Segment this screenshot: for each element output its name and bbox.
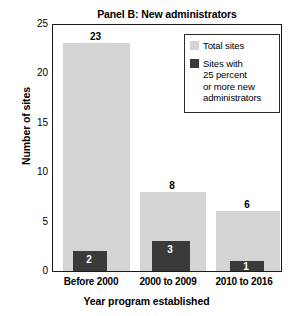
bar-value-label-sub-2010-2016: 1	[229, 261, 263, 272]
legend-swatch-icon-total-sites	[190, 41, 199, 50]
chart-title: Panel B: New administrators	[52, 8, 282, 20]
y-axis-tick-labels: 25 20 15 10 5 0	[22, 0, 48, 316]
x-tick-label-2010-2016: 2010 to 2016	[206, 276, 282, 288]
bar-value-label-sub-2000-2009: 3	[151, 244, 189, 255]
y-tick-label-0: 0	[26, 266, 48, 276]
y-tick-label-5: 5	[26, 217, 48, 227]
y-tick-label-25: 25	[26, 19, 48, 29]
legend-item-sites-25-percent: Sites with 25 percent or more new admini…	[190, 58, 275, 104]
bar-value-label-total-2000-2009: 8	[139, 180, 205, 191]
bar-value-label-total-before-2000: 23	[62, 31, 129, 42]
bar-value-label-sub-before-2000: 2	[72, 254, 106, 265]
plot-area: Total sites Sites with 25 percent or mor…	[52, 24, 282, 272]
y-tick-label-10: 10	[26, 167, 48, 177]
legend-item-total-sites: Total sites	[190, 40, 275, 52]
x-axis-title: Year program established	[0, 295, 293, 307]
y-tick-label-20: 20	[26, 68, 48, 78]
x-tick-label-2000-2009: 2000 to 2009	[130, 276, 206, 288]
legend-swatch-icon-sites-25-percent	[190, 59, 199, 68]
bar-total-before-2000[interactable]	[63, 43, 130, 271]
legend: Total sites Sites with 25 percent or mor…	[184, 34, 280, 113]
x-tick-label-before-2000: Before 2000	[52, 276, 130, 288]
chart-container: Panel B: New administrators Number of si…	[0, 0, 293, 316]
legend-label-sites-25-percent: Sites with 25 percent or more new admini…	[203, 58, 261, 104]
bar-value-label-total-2010-2016: 6	[215, 199, 279, 210]
legend-label-total-sites: Total sites	[203, 40, 244, 52]
y-tick-label-15: 15	[26, 118, 48, 128]
